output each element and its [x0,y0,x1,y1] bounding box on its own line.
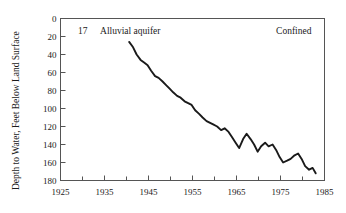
annotation-well-number: 17 [78,26,88,36]
x-tick-label: 1975 [272,187,291,197]
y-tick-label: 100 [43,104,57,114]
groundwater-hydrograph-chart: Depth to Water, Feet Below Land Surface … [0,0,346,213]
y-tick-label: 160 [43,158,57,168]
y-tick-label: 140 [43,140,57,150]
y-tick-label: 60 [48,68,58,78]
y-tick-label: 20 [48,32,58,42]
y-axis-title: Depth to Water, Feet Below Land Surface [11,31,21,190]
x-tick-label: 1955 [184,187,203,197]
annotation-aquifer-type: Alluvial aquifer [100,26,161,36]
annotation-confinement: Confined [276,26,312,36]
x-tick-label: 1935 [96,187,115,197]
y-tick-label: 120 [43,122,57,132]
y-tick-label: 80 [48,86,58,96]
y-tick-label: 40 [48,50,58,60]
y-tick-label: 180 [43,176,57,186]
y-tick-label: 0 [52,14,57,24]
x-tick-label: 1985 [316,187,335,197]
y-axis-title-text: Depth to Water, Feet Below Land Surface [11,31,21,190]
x-tick-label: 1925 [52,187,71,197]
x-tick-label: 1945 [140,187,159,197]
x-tick-label: 1965 [228,187,247,197]
